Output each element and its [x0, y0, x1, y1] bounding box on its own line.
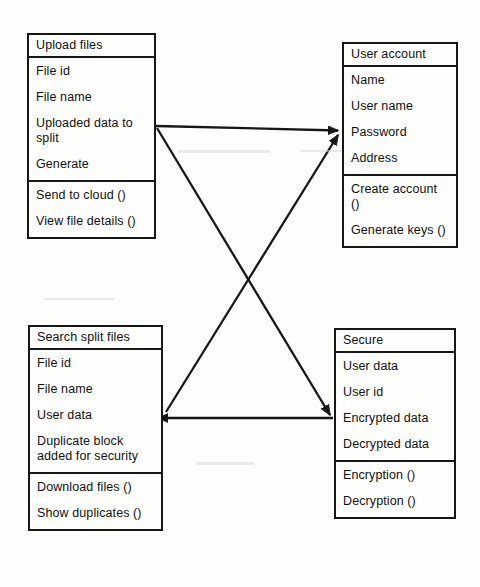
uml-operation: View file details () [36, 214, 147, 229]
uml-class-user-account[interactable]: User account Name User name Password Add… [342, 42, 458, 248]
uml-class-name-compartment: Secure [336, 330, 454, 353]
uml-attribute: File name [37, 382, 154, 397]
uml-attribute: Generate [36, 157, 147, 172]
connector-upload-to-user-account [156, 126, 338, 131]
uml-operations-compartment: Create account () Generate keys () [344, 176, 456, 246]
uml-attribute: File name [36, 90, 147, 105]
uml-attribute: Decrypted data [343, 437, 447, 452]
uml-attribute: File id [37, 356, 154, 371]
uml-operations-compartment: Send to cloud () View file details () [29, 182, 154, 237]
uml-class-name: User account [351, 47, 449, 61]
uml-operations-compartment: Download files () Show duplicates () [30, 474, 161, 529]
uml-class-name-compartment: User account [344, 44, 456, 67]
uml-class-name-compartment: Search split files [30, 327, 161, 350]
connector-upload-to-secure [157, 128, 330, 415]
connector-search-to-user-account [166, 135, 338, 412]
uml-attribute: User name [351, 99, 449, 114]
uml-class-secure[interactable]: Secure User data User id Encrypted data … [334, 328, 456, 519]
scan-artifact [300, 150, 346, 152]
uml-class-name-compartment: Upload files [29, 35, 154, 58]
uml-attribute: User data [37, 408, 154, 423]
uml-attribute: Address [351, 151, 449, 166]
uml-operation: Show duplicates () [37, 506, 154, 521]
uml-attributes-compartment: Name User name Password Address [344, 67, 456, 176]
diagram-canvas: Upload files File id File name Uploaded … [0, 0, 480, 587]
uml-attribute: File id [36, 64, 147, 79]
uml-attribute: User id [343, 385, 447, 400]
uml-operation: Create account () [351, 182, 449, 212]
uml-class-name: Upload files [36, 38, 147, 52]
uml-attributes-compartment: File id File name User data Duplicate bl… [30, 350, 161, 474]
uml-class-name: Search split files [37, 330, 154, 344]
uml-class-search-split-files[interactable]: Search split files File id File name Use… [28, 325, 163, 531]
uml-class-upload-files[interactable]: Upload files File id File name Uploaded … [27, 33, 156, 239]
uml-attribute: Uploaded data to split [36, 116, 147, 146]
uml-operations-compartment: Encryption () Decryption () [336, 462, 454, 517]
scan-artifact [196, 462, 254, 465]
uml-operation: Send to cloud () [36, 188, 147, 203]
uml-attribute: Duplicate block added for security [37, 434, 154, 464]
uml-attributes-compartment: File id File name Uploaded data to split… [29, 58, 154, 182]
uml-attribute: Name [351, 73, 449, 88]
uml-operation: Decryption () [343, 494, 447, 509]
uml-class-name: Secure [343, 333, 447, 347]
uml-operation: Generate keys () [351, 223, 449, 238]
uml-operation: Download files () [37, 480, 154, 495]
uml-operation: Encryption () [343, 468, 447, 483]
scan-artifact [44, 298, 114, 300]
uml-attribute: User data [343, 359, 447, 374]
scan-artifact [178, 150, 270, 153]
uml-attributes-compartment: User data User id Encrypted data Decrypt… [336, 353, 454, 462]
uml-attribute: Encrypted data [343, 411, 447, 426]
uml-attribute: Password [351, 125, 449, 140]
